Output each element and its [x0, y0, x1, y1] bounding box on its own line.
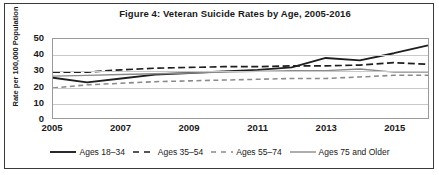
chart-title: Figure 4: Veteran Suicide Rates by Age, … — [40, 8, 430, 19]
legend-swatch-icon — [133, 147, 155, 157]
legend-label: Ages 55–74 — [236, 147, 281, 157]
legend-swatch-icon — [211, 147, 233, 157]
plot-area — [52, 38, 429, 119]
legend-label: Ages 18–34 — [79, 147, 124, 157]
y-tick-label: 20 — [24, 82, 44, 92]
series-lines — [53, 39, 428, 118]
y-tick-label: 10 — [24, 98, 44, 108]
legend-item-3[interactable]: Ages 55–74 — [211, 147, 281, 157]
legend-label: Ages 35–54 — [158, 147, 203, 157]
series-line-3 — [53, 75, 428, 88]
legend-swatch-icon — [50, 147, 76, 157]
chart-legend: Ages 18–34Ages 35–54Ages 55–74Ages 75 an… — [10, 143, 430, 161]
x-tick-label: 2015 — [384, 122, 405, 133]
x-tick-label: 2005 — [41, 122, 62, 133]
legend-item-1[interactable]: Ages 18–34 — [50, 147, 124, 157]
x-tick-label: 2009 — [179, 122, 200, 133]
gridline — [53, 104, 428, 105]
gridline — [53, 71, 428, 72]
x-tick-label: 2007 — [110, 122, 131, 133]
legend-swatch-icon — [290, 147, 316, 157]
legend-item-4[interactable]: Ages 75 and Older — [290, 147, 390, 157]
y-tick-label: 50 — [24, 33, 44, 43]
gridline — [53, 88, 428, 89]
y-tick-label: 30 — [24, 66, 44, 76]
x-tick-label: 2011 — [247, 122, 268, 133]
x-tick-label: 2013 — [316, 122, 337, 133]
y-axis-label: Rate per 100,000 Population — [11, 2, 20, 112]
y-tick-label: 40 — [24, 49, 44, 59]
legend-label: Ages 75 and Older — [319, 147, 390, 157]
gridline — [53, 55, 428, 56]
figure-container: Figure 4: Veteran Suicide Rates by Age, … — [0, 0, 439, 175]
legend-item-2[interactable]: Ages 35–54 — [133, 147, 203, 157]
x-axis-ticks: 200520072009201120132015 — [52, 122, 429, 138]
